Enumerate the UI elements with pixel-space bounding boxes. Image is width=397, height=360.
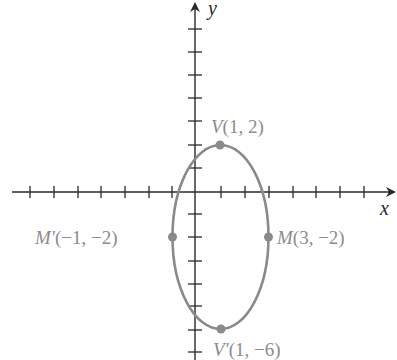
coordinate-plane: y x V(1, 2) V′(1, −6) M(3, −2) M′(−1, −2… bbox=[0, 0, 397, 360]
x-axis-label: x bbox=[379, 197, 389, 219]
vertex-v-label: V(1, 2) bbox=[211, 116, 264, 138]
ellipse-curve bbox=[173, 145, 269, 329]
y-axis-label: y bbox=[206, 0, 217, 20]
point-m-prime-label: M′(−1, −2) bbox=[34, 227, 118, 249]
vertex-v-prime-label: V′(1, −6) bbox=[213, 339, 281, 360]
point-m-label: M(3, −2) bbox=[276, 227, 345, 249]
vertex-v-prime-point bbox=[217, 325, 226, 334]
point-m bbox=[264, 233, 273, 242]
point-m-prime bbox=[168, 233, 177, 242]
vertex-v-point bbox=[216, 141, 225, 150]
